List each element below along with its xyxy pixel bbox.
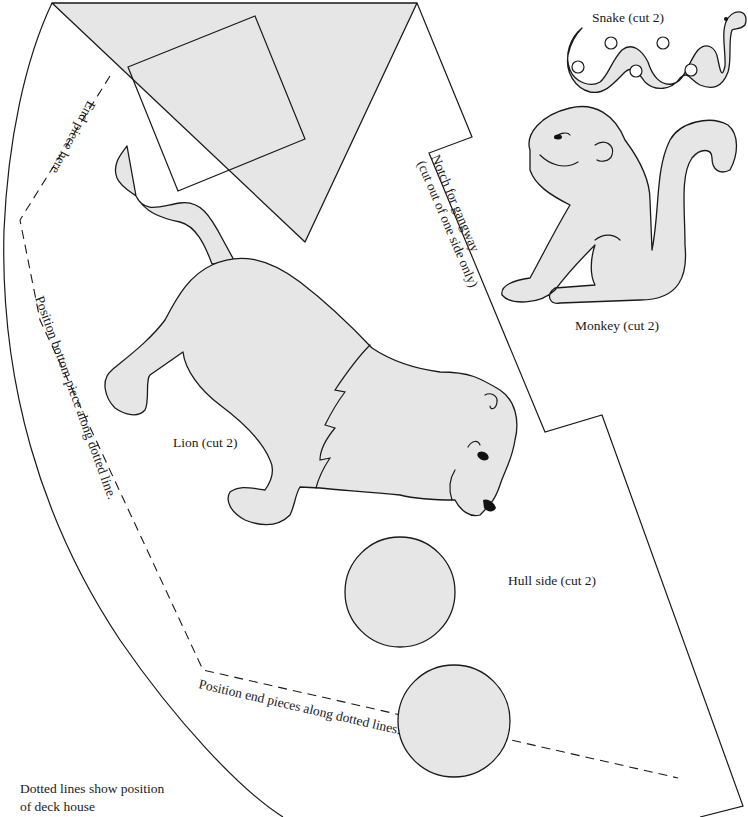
monkey-eye [554, 135, 562, 140]
lion-tail [115, 146, 235, 264]
monkey-label: Monkey (cut 2) [575, 318, 659, 333]
snake-hole [657, 37, 669, 49]
snake-hole [605, 37, 617, 49]
lion-body [105, 258, 517, 524]
snake-hole [630, 65, 642, 77]
bottom-piece-label: Position bottom piece along dotted line. [32, 294, 120, 501]
snake-eye [724, 17, 728, 21]
porthole-circle-lower [398, 665, 510, 777]
end-pieces-label: Position end pieces along dotted lines. [197, 676, 402, 737]
deck-note-line1: Dotted lines show position [20, 781, 165, 796]
snake-label: Snake (cut 2) [592, 10, 664, 25]
snake-hole [572, 61, 584, 73]
snake-hole [685, 64, 697, 76]
monkey-piece [502, 107, 737, 304]
hull-side-label: Hull side (cut 2) [508, 573, 596, 588]
porthole-circle-upper [345, 537, 455, 647]
deck-note-line2: of deck house [20, 799, 95, 814]
end-piece-label: End piece here [48, 99, 99, 177]
template-canvas: Snake (cut 2) Monkey (cut 2) Lion (cut 2… [0, 0, 748, 817]
lion-label: Lion (cut 2) [173, 435, 237, 450]
roof-triangle-piece [52, 3, 417, 242]
